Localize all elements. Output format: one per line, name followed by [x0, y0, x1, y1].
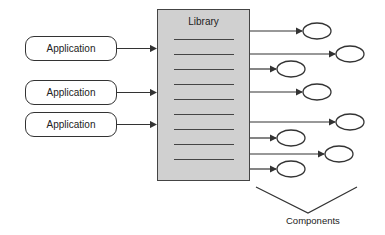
- component-ellipse: [303, 84, 331, 100]
- component-ellipse: [277, 161, 305, 177]
- library-line: [174, 99, 234, 100]
- library-line: [174, 144, 234, 145]
- library-line: [174, 39, 234, 40]
- library-line: [174, 114, 234, 115]
- component-ellipse: [325, 146, 353, 162]
- library-line: [174, 129, 234, 130]
- application-box: Application: [25, 36, 117, 61]
- component-ellipse: [336, 46, 364, 62]
- component-ellipse: [277, 130, 305, 146]
- application-arrows: [117, 49, 156, 125]
- component-ellipse: [303, 23, 331, 39]
- component-ellipse: [336, 114, 364, 130]
- library-line: [174, 159, 234, 160]
- library-line: [174, 84, 234, 85]
- application-box: Application: [25, 80, 117, 105]
- library-box: Library: [157, 9, 250, 181]
- library-line: [174, 54, 234, 55]
- library-line: [174, 69, 234, 70]
- library-title: Library: [158, 16, 249, 27]
- components-bracket: [256, 187, 357, 213]
- component-ellipse: [277, 61, 305, 77]
- components-label: Components: [286, 215, 340, 226]
- application-box: Application: [25, 112, 117, 137]
